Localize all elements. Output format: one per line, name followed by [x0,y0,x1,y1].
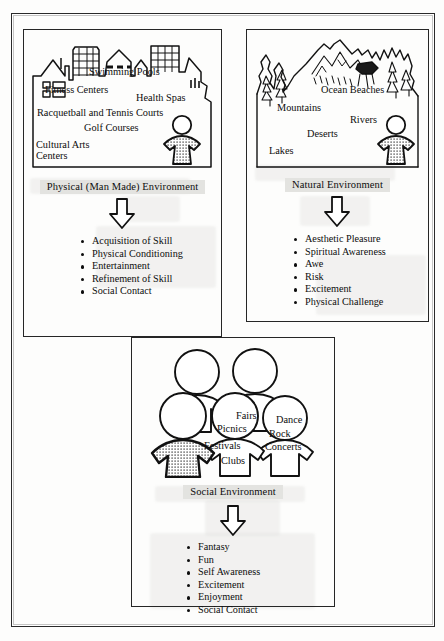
scene-word: Rock [269,428,291,439]
outcome-item: Fun [185,554,260,567]
outcome-item: Excitement [292,283,386,296]
down-arrow-icon [323,196,351,228]
scene-word: Deserts [307,128,338,139]
outcome-item: Social Contact [185,604,260,617]
scene-word: Festivals [204,440,241,451]
outcome-item: Entertainment [79,260,183,273]
panel-label-physical: Physical (Man Made) Environment [24,180,221,194]
scene-word: Golf Courses [84,122,139,133]
panel-social-environment: Fairs Dance Picnics Rock Festivals Conce… [131,337,335,607]
outcome-item: Risk [292,271,386,284]
person-figure-icon [161,114,203,166]
panel-natural-environment: Ocean Beaches Mountains Rivers Deserts L… [246,29,429,322]
panel-label-natural: Natural Environment [247,178,428,192]
scene-word: Cultural Arts [36,139,90,150]
down-arrow-icon [219,505,247,537]
outcomes-list-physical: Acquisition of Skill Physical Conditioni… [79,235,183,298]
outcome-item: Aesthetic Pleasure [292,233,386,246]
scene-word: Swimming Pools [89,66,160,77]
scene-word: Mountains [277,102,321,113]
scene-word: Ocean Beaches [321,84,384,95]
scene-word: Lakes [269,145,294,156]
outcomes-list-natural: Aesthetic Pleasure Spiritual Awareness A… [292,233,386,309]
outcome-item: Fantasy [185,541,260,554]
diagram-page: Swimming Pools Fitness Centers Health Sp… [0,0,444,641]
person-figure-icon [375,114,417,166]
outcome-item: Acquisition of Skill [79,235,183,248]
outcome-item: Enjoyment [185,591,260,604]
outcome-item: Awe [292,258,386,271]
outcome-item: Physical Conditioning [79,248,183,261]
scene-word: Centers [36,150,67,161]
outcome-item: Self Awareness [185,566,260,579]
scene-word: Fitness Centers [45,84,108,95]
scene-word: Dance [276,414,302,425]
outcome-item: Social Contact [79,285,183,298]
outcome-item: Physical Challenge [292,296,386,309]
outcome-item: Refinement of Skill [79,273,183,286]
scene-word: Health Spas [136,92,185,103]
outcome-item: Spiritual Awareness [292,246,386,259]
outcomes-list-social: Fantasy Fun Self Awareness Excitement En… [185,541,260,617]
scene-word: Rivers [350,114,377,125]
down-arrow-icon [108,198,136,230]
panel-label-social: Social Environment [132,485,334,499]
scene-word: Concerts [265,441,302,452]
panel-physical-environment: Swimming Pools Fitness Centers Health Sp… [23,29,222,337]
scene-word: Picnics [217,423,247,434]
scene-word: Fairs [236,410,257,421]
scene-word: Racquetball and Tennis Courts [37,107,163,118]
outcome-item: Excitement [185,579,260,592]
scene-word: Clubs [221,455,245,466]
